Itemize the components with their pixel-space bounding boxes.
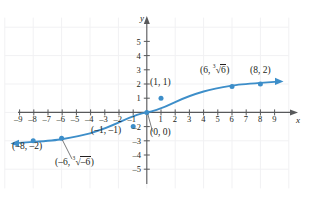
y-tick-label-neg5: –5 <box>133 165 142 174</box>
annotation-point-neg8-neg2: (–8, –2) <box>12 142 42 152</box>
coordinate-plane-svg <box>0 0 310 205</box>
x-tick-label-1: 1 <box>159 115 163 124</box>
x-tick-label-4: 4 <box>201 115 205 124</box>
point-8-2 <box>258 82 263 87</box>
cube-root-graph-figure: –9 –8 –7 –6 –5 –4 –3 –2 –1 1 2 3 4 5 6 7… <box>0 0 310 205</box>
point-6-cbrt6 <box>230 84 235 89</box>
x-tick-label-neg3: –3 <box>99 115 108 124</box>
annotation-neg6-close: ) <box>91 157 94 167</box>
x-tick-label-5: 5 <box>215 115 219 124</box>
x-tick-label-6: 6 <box>230 115 234 124</box>
y-tick-label-neg3: –3 <box>133 137 142 146</box>
x-tick-label-neg8: –8 <box>28 115 37 124</box>
y-tick-label-3: 3 <box>137 66 141 75</box>
y-tick-label-4: 4 <box>137 52 141 61</box>
x-tick-label-neg5: –5 <box>71 115 80 124</box>
annotation-6-close: ) <box>226 65 229 75</box>
point-neg6-cbrtneg6 <box>59 136 64 141</box>
y-tick-label-1: 1 <box>137 94 141 103</box>
annotation-neg6-open: (–6, <box>55 157 72 167</box>
x-tick-label-neg4: –4 <box>85 115 94 124</box>
x-tick-label-3: 3 <box>187 115 191 124</box>
y-axis-label: y <box>140 14 144 23</box>
x-axis-label: x <box>296 116 300 125</box>
radicand-6: 6 <box>220 64 226 75</box>
cube-root-radical-neg6: 3√–6 <box>72 158 90 168</box>
cube-root-radical-6: 3√6 <box>213 66 226 76</box>
annotation-6-open: (6, <box>200 65 213 75</box>
annotation-point-0-0: (0, 0) <box>150 128 171 138</box>
radicand-neg6: –6 <box>80 156 91 167</box>
x-tick-label-neg9: –9 <box>14 115 23 124</box>
x-tick-label-7: 7 <box>244 115 248 124</box>
x-tick-label-2: 2 <box>173 115 177 124</box>
y-tick-label-neg4: –4 <box>133 151 142 160</box>
radical-index-3-neg: 3 <box>72 156 75 162</box>
x-tick-label-neg7: –7 <box>42 115 51 124</box>
radical-index-3: 3 <box>213 64 216 70</box>
point-1-1 <box>159 96 164 101</box>
x-tick-label-neg6: –6 <box>57 115 66 124</box>
x-tick-label-8: 8 <box>258 115 262 124</box>
point-0-0 <box>144 110 149 115</box>
y-tick-label-neg2: –2 <box>133 123 142 132</box>
y-tick-label-2: 2 <box>137 80 141 89</box>
annotation-point-8-2: (8, 2) <box>250 66 271 76</box>
annotation-point-neg1-neg1: (–1, –1) <box>91 126 121 136</box>
x-tick-label-neg2: –2 <box>113 115 122 124</box>
annotation-point-neg6-cbrtneg6: (–6, 3√–6) <box>55 158 94 168</box>
y-tick-label-5: 5 <box>137 38 141 47</box>
annotation-point-1-1: (1, 1) <box>150 78 171 88</box>
annotation-point-6-cbrt6: (6, 3√6) <box>200 66 229 76</box>
x-tick-label-9: 9 <box>272 115 276 124</box>
